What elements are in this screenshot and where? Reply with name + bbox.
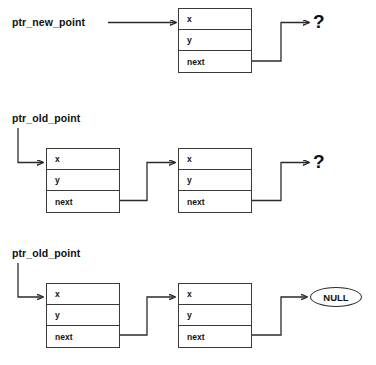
node-field-next: next [179, 51, 251, 72]
node-field-next: next [179, 191, 251, 212]
pointer-label-ptr-old-point-unterminated: ptr_old_point [12, 112, 80, 124]
node-field-y: y [47, 305, 119, 326]
pointer-label-ptr-old-point-terminated: ptr_old_point [12, 247, 80, 259]
struct-node-new: x y next [178, 8, 252, 73]
null-terminator-ellipse: NULL [310, 287, 362, 307]
struct-node-old-4: x y next [178, 283, 252, 348]
node-field-y: y [179, 305, 251, 326]
node-field-y: y [179, 30, 251, 51]
unknown-pointer-question-mark: ? [313, 152, 325, 171]
node-field-y: y [179, 170, 251, 191]
struct-node-old-1: x y next [46, 148, 120, 213]
node-field-x: x [179, 149, 251, 170]
pointer-label-ptr-new-point: ptr_new_point [12, 16, 85, 28]
node-field-x: x [179, 284, 251, 305]
node-field-x: x [47, 284, 119, 305]
node-field-y: y [47, 170, 119, 191]
node-field-x: x [47, 149, 119, 170]
unknown-pointer-question-mark: ? [313, 12, 325, 31]
node-field-x: x [179, 9, 251, 30]
linked-list-diagram: new node --> ? --> node 1 --> node2 --> … [0, 0, 376, 365]
node-field-next: next [47, 191, 119, 212]
struct-node-old-3: x y next [46, 283, 120, 348]
struct-node-old-2: x y next [178, 148, 252, 213]
node-field-next: next [47, 326, 119, 347]
node-field-next: next [179, 326, 251, 347]
